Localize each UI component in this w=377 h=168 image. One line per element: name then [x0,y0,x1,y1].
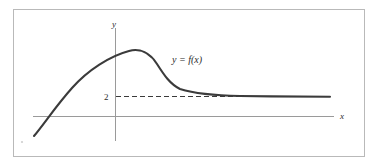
figure-container: x y 2 y = f(x) [0,0,377,168]
asymptote-value-label: 2 [104,92,109,102]
page-speck [21,141,23,143]
function-label: y = f(x) [171,54,203,66]
figure-border [14,10,365,157]
y-axis-label: y [111,19,116,29]
graph-canvas: x y 2 y = f(x) [0,0,377,168]
x-axis-label: x [339,111,344,121]
